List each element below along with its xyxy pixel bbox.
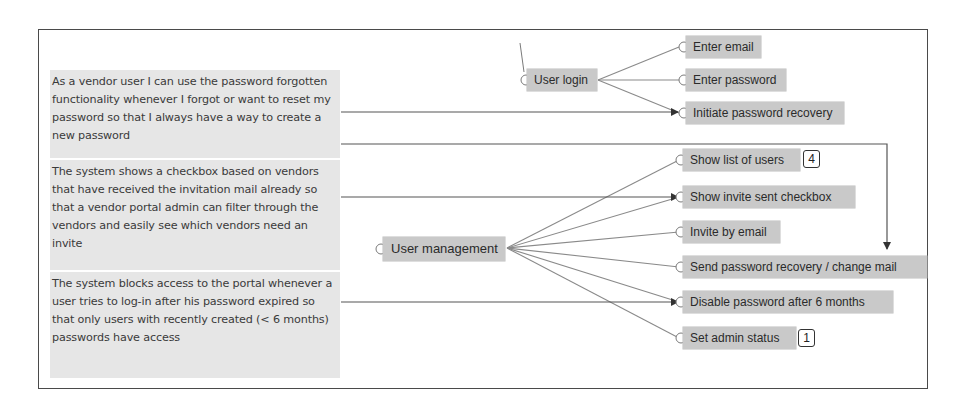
- node-label: Set admin status: [690, 331, 779, 345]
- count-badge: 4: [803, 150, 820, 168]
- node-label: Send password recovery / change mail: [690, 260, 897, 274]
- node-set-admin-status[interactable]: Set admin status: [683, 327, 796, 349]
- node-label: Enter password: [693, 73, 776, 87]
- node-user-login[interactable]: User login: [527, 69, 597, 91]
- node-show-invite-sent-checkbox[interactable]: Show invite sent checkbox: [683, 186, 855, 208]
- node-label: Show list of users: [690, 153, 784, 167]
- node-label: User management: [391, 241, 498, 256]
- story-text: The system blocks access to the portal w…: [52, 277, 332, 344]
- node-label: Invite by email: [690, 225, 767, 239]
- node-disable-password-after-6-months[interactable]: Disable password after 6 months: [683, 291, 893, 313]
- node-label: Show invite sent checkbox: [690, 190, 831, 204]
- node-label: Disable password after 6 months: [690, 295, 865, 309]
- node-label: User login: [534, 73, 588, 87]
- node-invite-by-email[interactable]: Invite by email: [683, 221, 780, 243]
- node-show-list-of-users[interactable]: Show list of users: [683, 149, 800, 171]
- story-text: The system shows a checkbox based on ven…: [52, 165, 319, 250]
- node-initiate-password-recovery[interactable]: Initiate password recovery: [686, 102, 844, 124]
- node-label: Initiate password recovery: [693, 106, 832, 120]
- node-enter-password[interactable]: Enter password: [686, 69, 786, 91]
- story-text: As a vendor user I can use the password …: [52, 75, 331, 142]
- user-story-password-expiry: The system blocks access to the portal w…: [50, 272, 340, 378]
- user-story-invite-checkbox: The system shows a checkbox based on ven…: [50, 160, 340, 270]
- node-user-management[interactable]: User management: [383, 237, 505, 261]
- user-story-password-recovery: As a vendor user I can use the password …: [50, 70, 340, 158]
- node-send-password-recovery-mail[interactable]: Send password recovery / change mail: [683, 256, 927, 278]
- node-label: Enter email: [693, 40, 754, 54]
- count-badge: 1: [798, 329, 815, 347]
- node-enter-email[interactable]: Enter email: [686, 36, 761, 58]
